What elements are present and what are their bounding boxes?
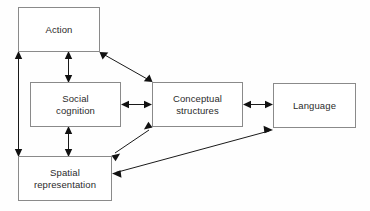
node-conceptual-structures-label: Conceptual structures	[173, 93, 222, 117]
edge-action-conceptual-structures	[100, 52, 153, 82]
node-social-cognition-label: Social cognition	[56, 93, 95, 117]
node-action-label: Action	[45, 24, 72, 36]
edge-spatial-representation-language	[112, 126, 273, 178]
node-spatial-representation[interactable]: Spatial representation	[18, 156, 112, 201]
edge-spatial-representation-conceptual-structures	[112, 122, 153, 161]
node-action[interactable]: Action	[18, 7, 100, 52]
node-spatial-representation-label: Spatial representation	[34, 167, 96, 191]
node-language-label: Language	[293, 100, 336, 112]
diagram-canvas: Action Social cognition Conceptual struc…	[0, 0, 370, 211]
node-language[interactable]: Language	[273, 83, 356, 128]
node-conceptual-structures[interactable]: Conceptual structures	[152, 82, 243, 127]
edge-action-social-cognition	[65, 51, 72, 83]
edge-social-cognition-spatial-representation	[65, 126, 72, 157]
edge-action-spatial-representation	[15, 51, 22, 157]
edge-social-cognition-conceptual-structures	[121, 101, 152, 108]
edge-conceptual-structures-language	[243, 101, 273, 108]
node-social-cognition[interactable]: Social cognition	[30, 82, 121, 127]
